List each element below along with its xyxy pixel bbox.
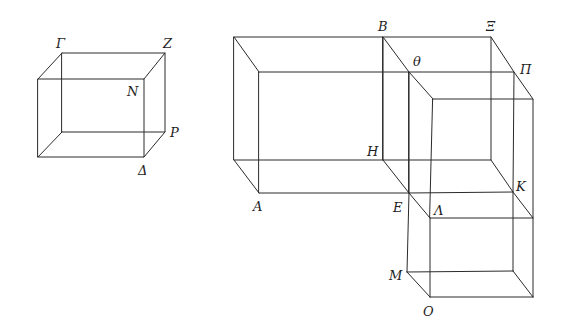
edge bbox=[383, 160, 409, 193]
large-box-back-face bbox=[234, 37, 383, 160]
label-theta: θ bbox=[413, 54, 421, 69]
edge bbox=[513, 271, 533, 297]
label-o: O bbox=[423, 304, 434, 319]
lower-box bbox=[407, 192, 533, 297]
edge bbox=[38, 53, 62, 79]
edge bbox=[38, 132, 62, 157]
edge bbox=[144, 132, 165, 157]
large-box-front-face bbox=[259, 72, 409, 193]
label-k: K bbox=[515, 179, 527, 194]
diagram-canvas: Γ Z N P Δ B Ξ θ Π H K A E Λ M O bbox=[0, 0, 569, 327]
label-e: E bbox=[392, 200, 403, 215]
edge bbox=[144, 53, 165, 79]
label-n: N bbox=[126, 84, 139, 99]
left-box bbox=[38, 53, 165, 157]
label-m: M bbox=[388, 268, 403, 283]
edge bbox=[409, 72, 433, 99]
label-z: Z bbox=[162, 36, 173, 51]
edge bbox=[491, 37, 514, 72]
upper-right-box bbox=[383, 37, 533, 218]
upper-right-box-front-face bbox=[430, 99, 533, 218]
edge bbox=[407, 272, 430, 297]
label-a: A bbox=[252, 199, 262, 214]
label-b: B bbox=[377, 19, 388, 34]
vertex-labels: Γ Z N P Δ B Ξ θ Π H K A E Λ M O bbox=[55, 19, 532, 319]
label-lambda: Λ bbox=[433, 203, 443, 218]
label-xi: Ξ bbox=[485, 19, 496, 34]
label-p: P bbox=[169, 125, 179, 140]
edge bbox=[491, 160, 513, 192]
label-gamma: Γ bbox=[55, 36, 66, 51]
label-delta: Δ bbox=[137, 163, 147, 178]
edge bbox=[513, 192, 533, 218]
edge bbox=[407, 271, 513, 272]
label-pi: Π bbox=[519, 62, 532, 77]
edge bbox=[407, 193, 409, 272]
edge bbox=[234, 37, 259, 72]
edge bbox=[234, 160, 259, 193]
edge bbox=[383, 37, 409, 72]
left-box-back-face bbox=[62, 53, 165, 132]
edge bbox=[409, 193, 430, 218]
label-h: H bbox=[366, 144, 379, 159]
